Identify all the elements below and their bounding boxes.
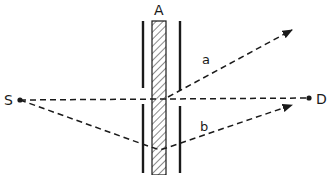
label-path-a: a — [202, 52, 210, 67]
detector-point — [306, 95, 311, 100]
label-source-s: S — [4, 92, 13, 108]
source-point — [17, 97, 22, 102]
path-a — [168, 30, 292, 97]
label-slab-a: A — [154, 2, 164, 18]
slab-a — [152, 21, 166, 175]
path-direct — [20, 98, 308, 100]
label-path-b: b — [200, 119, 208, 134]
label-detector-d: D — [316, 91, 327, 107]
diagram-canvas: A S D a b — [0, 0, 332, 175]
